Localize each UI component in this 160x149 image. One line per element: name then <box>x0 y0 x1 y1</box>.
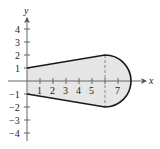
x-tick-label: 4 <box>76 85 81 96</box>
x-tick-label: 7 <box>115 85 120 96</box>
y-tick-label: −1 <box>9 89 20 100</box>
y-axis-label: y <box>23 5 29 16</box>
region-diagram: y x 1 2 3 4 5 7 4 3 2 1 −1 −2 −3 −4 <box>0 0 160 149</box>
y-tick-label: −4 <box>9 128 20 139</box>
x-tick-label: 2 <box>50 85 55 96</box>
x-axis-label: x <box>148 75 154 86</box>
y-tick-label: −3 <box>9 115 20 126</box>
y-tick-label: 1 <box>15 63 20 74</box>
x-tick-label: 5 <box>89 85 94 96</box>
y-tick-label: 2 <box>15 50 20 61</box>
y-tick-label: 3 <box>15 37 20 48</box>
x-tick-label: 1 <box>37 85 42 96</box>
y-tick-label: 4 <box>15 24 20 35</box>
y-tick-label: −2 <box>9 102 20 113</box>
x-tick-label: 3 <box>63 85 68 96</box>
